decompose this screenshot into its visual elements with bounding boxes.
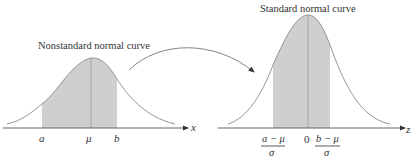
- standard-curve-panel: Standard normal curve z 0 a − μ σ b − μ …: [218, 3, 411, 156]
- tick-left-numerator: a − μ: [262, 133, 285, 144]
- nonstandard-curve-panel: Nonstandard normal curve x a μ b: [3, 40, 196, 144]
- tick-zero: 0: [304, 133, 310, 145]
- tick-left-denominator: σ: [269, 147, 275, 156]
- right-shaded-area: [273, 15, 330, 128]
- normal-standardization-diagram: Nonstandard normal curve x a μ b Standar…: [0, 0, 413, 156]
- tick-a: a: [39, 132, 45, 144]
- tick-right-numerator: b − μ: [316, 133, 339, 144]
- right-title: Standard normal curve: [260, 3, 356, 14]
- tick-mu: μ: [85, 132, 92, 144]
- left-title: Nonstandard normal curve: [38, 40, 150, 51]
- z-axis-label: z: [405, 123, 411, 135]
- x-axis-label: x: [190, 121, 196, 133]
- tick-b: b: [114, 132, 120, 144]
- transform-arrow: [129, 48, 254, 72]
- tick-right-denominator: σ: [324, 147, 330, 156]
